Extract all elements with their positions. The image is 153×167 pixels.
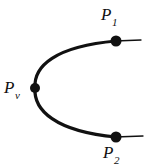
point-marker-pv xyxy=(30,83,40,93)
label-p1: P1 xyxy=(101,6,117,26)
label-pv-base: P xyxy=(4,78,14,97)
point-marker-p1 xyxy=(111,36,122,47)
label-p2: P2 xyxy=(103,144,119,164)
figure-canvas: P1 Pv P2 xyxy=(0,0,153,167)
point-marker-p2 xyxy=(111,132,122,143)
label-p2-base: P xyxy=(103,143,113,162)
label-p2-subscript: 2 xyxy=(114,154,120,166)
label-p1-base: P xyxy=(101,5,111,24)
parabola-diagram xyxy=(0,0,153,167)
label-p1-subscript: 1 xyxy=(112,16,118,28)
parabola-lower-branch xyxy=(35,88,116,137)
label-pv-subscript: v xyxy=(15,89,20,101)
parabola-upper-branch xyxy=(35,41,116,88)
label-pv: Pv xyxy=(4,79,19,99)
